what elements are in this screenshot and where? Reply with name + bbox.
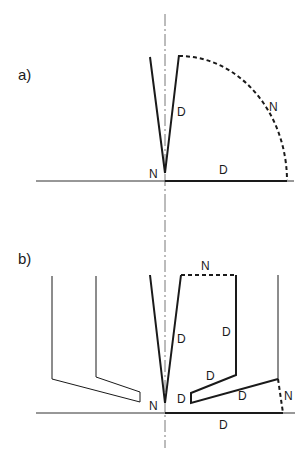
- panel-a: a) D N D N: [18, 14, 294, 200]
- label-n-arc: N: [269, 100, 278, 114]
- panel-a-label: a): [18, 66, 31, 83]
- label-d-slope-lower: D: [238, 389, 247, 403]
- label-d-notch: D: [177, 392, 186, 406]
- side-neumann: [278, 379, 283, 413]
- right-wall-dirichlet: [191, 275, 278, 403]
- label-n-top: N: [201, 259, 210, 273]
- panel-b: b) N D D D D D N D N: [18, 200, 295, 448]
- label-n-tip-b: N: [149, 399, 158, 413]
- label-d-wedge-b: D: [177, 332, 186, 346]
- boundary-condition-diagram: a) D N D N b) N D D D D D N D N: [0, 0, 307, 452]
- label-d-baseline-b: D: [219, 418, 228, 432]
- arc-neumann: [179, 56, 287, 180]
- label-d-wedge: D: [177, 105, 186, 119]
- label-d-right-wall: D: [222, 325, 231, 339]
- label-n-tip: N: [149, 167, 158, 181]
- left-wall-outline: [52, 276, 140, 402]
- wedge: [150, 55, 179, 173]
- label-d-slope-upper: D: [206, 369, 215, 383]
- label-n-side: N: [284, 389, 293, 403]
- label-d-baseline: D: [219, 163, 228, 177]
- panel-b-label: b): [18, 250, 31, 267]
